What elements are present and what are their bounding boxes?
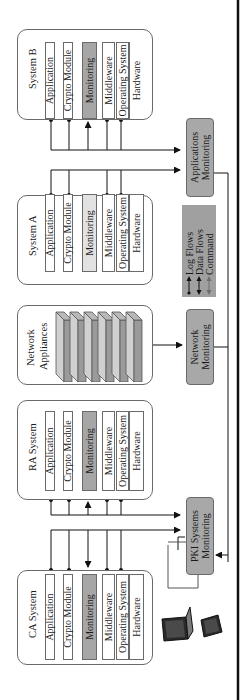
layer-crypto-module: Crypto Module [63, 411, 73, 491]
layer-monitoring: Monitoring [82, 411, 97, 491]
command-arrow-icon [207, 276, 212, 295]
system-b-box: System B Application Crypto Module Monit… [17, 29, 153, 120]
layer-monitoring: Monitoring [82, 194, 97, 272]
layer-operating-system: Operating System [116, 42, 129, 119]
data-flow-arrow-icon [197, 276, 202, 295]
architecture-diagram: System B Application Crypto Module Monit… [0, 0, 246, 700]
legend-arrows [184, 275, 214, 295]
layer-crypto-module: Crypto Module [63, 194, 73, 272]
laptop-icon [160, 603, 194, 645]
layer-hardware: Hardware [129, 411, 144, 491]
tablet-icon [200, 612, 224, 640]
network-monitoring-line2: Monitoring [200, 324, 212, 370]
layer-application: Application [45, 42, 55, 119]
legend: Log Flows Data Flows Command [182, 205, 216, 297]
layer-operating-system: Operating System [116, 574, 129, 660]
applications-monitoring-line1: Applications [189, 132, 201, 183]
ca-system-box: CA System Application Crypto Module Moni… [17, 570, 153, 665]
layer-middleware: Middleware [102, 411, 115, 491]
applications-monitoring-box: Applications Monitoring [186, 118, 214, 197]
layer-application: Application [45, 574, 55, 660]
layer-hardware: Hardware [129, 574, 144, 660]
network-appliances-title-line2: Appliances [39, 323, 50, 370]
layer-application: Application [45, 411, 55, 491]
layer-monitoring: Monitoring [82, 574, 97, 660]
log-flow-arrow-icon [187, 276, 192, 295]
ra-system-box: RA System Application Crypto Module Moni… [17, 400, 153, 500]
pki-systems-monitoring-box: PKI Systems Monitoring [186, 497, 214, 575]
applications-monitoring-line2: Monitoring [200, 135, 212, 181]
layer-application: Application [45, 194, 55, 272]
layer-operating-system: Operating System [116, 194, 129, 272]
layer-middleware: Middleware [102, 194, 115, 272]
layer-middleware: Middleware [102, 574, 115, 660]
system-a-title: System A [28, 215, 39, 256]
layer-crypto-module: Crypto Module [63, 574, 73, 660]
system-b-title: System B [28, 48, 39, 89]
layer-middleware: Middleware [102, 42, 115, 119]
legend-command: Command [204, 233, 215, 275]
pki-monitoring-line1: PKI Systems [189, 510, 201, 562]
layer-operating-system: Operating System [116, 411, 129, 491]
network-appliances-title-line1: Network [26, 329, 37, 366]
ca-system-title: CA System [28, 590, 39, 638]
pki-monitoring-line2: Monitoring [200, 513, 212, 559]
layer-hardware: Hardware [129, 194, 144, 272]
network-appliances-box: Network Appliances [17, 305, 153, 385]
system-a-box: System A Application Crypto Module Monit… [17, 195, 153, 285]
network-monitoring-box: Network Monitoring [186, 309, 214, 385]
layer-monitoring: Monitoring [82, 42, 97, 119]
layer-crypto-module: Crypto Module [63, 42, 73, 119]
layer-hardware: Hardware [129, 42, 144, 119]
network-monitoring-line1: Network [189, 330, 201, 365]
network-appliance-stack [52, 306, 148, 382]
ra-system-title: RA System [28, 423, 39, 471]
